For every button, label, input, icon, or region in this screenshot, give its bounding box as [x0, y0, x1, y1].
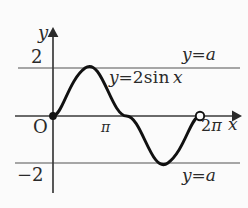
curve-eq-sin: sin [144, 67, 170, 87]
y-axis-label: y [38, 24, 48, 42]
curve-eq-coefficient: 2 [133, 67, 144, 87]
x-axis-label: x [228, 116, 238, 133]
x-tick-two-pi-number: 2 [201, 116, 211, 135]
x-tick-label-two-pi: 2π [201, 118, 222, 134]
marker-origin-filled [49, 112, 57, 120]
x-tick-label-pi: π [101, 120, 110, 134]
y-tick-label-minus-2: −2 [17, 166, 44, 184]
label-curve-equation: y=2sin x [109, 69, 183, 86]
label-y-equals-a-bottom: y=a [182, 167, 216, 184]
math-figure: y x 2 −2 O π 2π y=a y=a y=2sin x [0, 0, 248, 208]
curve-eq-y: y [109, 67, 119, 87]
y-tick-label-2: 2 [31, 48, 42, 66]
x-tick-two-pi-symbol: π [211, 116, 222, 135]
label-y-equals-a-top: y=a [182, 46, 216, 63]
y-axis-arrowhead-icon [48, 27, 59, 37]
curve-eq-variable: x [173, 67, 183, 87]
curve-eq-equals: = [119, 67, 133, 87]
origin-label: O [33, 118, 48, 136]
